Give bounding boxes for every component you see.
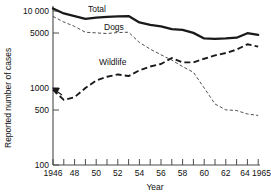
x-tick-label-1964: 64 [240,168,250,178]
series-label-total: Total [88,4,106,14]
x-tick-label-1960: 60 [199,168,209,178]
y-tick-label-1000: 1000 [30,83,49,93]
y-tick-label-10000: 10 000 [23,6,49,16]
x-axis-tick-labels: 1946 48 50 52 54 56 58 60 62 64 1965 [44,168,271,178]
x-tick-label-1962: 62 [221,168,231,178]
x-tick-label-1956: 56 [156,168,166,178]
chart-figure: Reported number of cases 10 000 5000 100… [0,0,271,194]
x-tick-label-1958: 58 [178,168,188,178]
y-axis-title: Reported number of cases [3,48,13,148]
series-label-dogs: Dogs [104,22,124,32]
series-label-wildlife: Wildlife [99,57,127,67]
y-tick-label-500: 500 [35,105,49,115]
rabies-cases-line-chart: Reported number of cases 10 000 5000 100… [0,0,271,194]
x-tick-label-1948: 48 [70,168,80,178]
x-tick-label-1946: 1946 [44,168,63,178]
x-axis-title: Year [146,182,163,192]
x-tick-label-1965: 1965 [252,168,271,178]
x-tick-label-1950: 50 [91,168,101,178]
series-line-total [53,8,258,38]
x-tick-label-1954: 54 [135,168,145,178]
x-tick-label-1952: 52 [113,168,123,178]
series-line-wildlife [53,44,258,100]
x-axis-ticks [53,159,258,165]
y-tick-label-5000: 5000 [30,28,49,38]
y-axis-tick-labels: 10 000 5000 1000 500 100 [23,6,49,170]
